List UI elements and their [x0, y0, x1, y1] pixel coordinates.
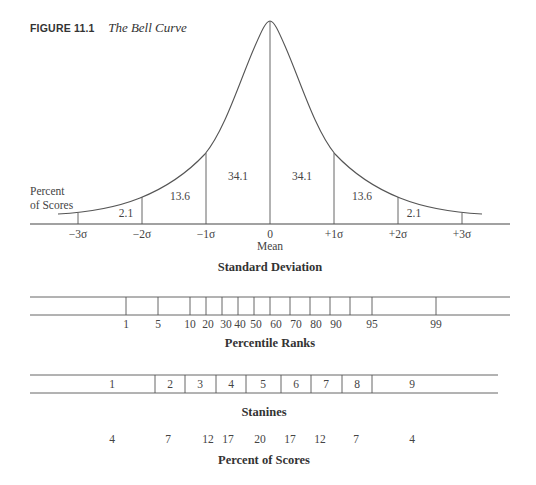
stanine-percent: 17 [222, 433, 234, 445]
stanine-percent: 7 [165, 433, 171, 445]
percentile-title: Percentile Ranks [225, 336, 316, 350]
stanine-label: 5 [260, 378, 266, 390]
percentile-tick: 30 [220, 318, 232, 330]
percentile-tick: 40 [234, 318, 246, 330]
percentile-tick: 5 [155, 318, 161, 330]
area-label: 13.6 [352, 190, 372, 202]
sigma-dividers [78, 21, 462, 224]
percentile-tick: 10 [184, 318, 196, 330]
area-label: 13.6 [170, 190, 190, 202]
sigma-tick: −3σ [69, 228, 88, 240]
area-label: 34.1 [292, 170, 312, 182]
y-label-line1: Percent [30, 185, 65, 197]
stanine-label: 4 [228, 378, 234, 390]
percentile-tick-labels: 1 5 10 20 30 40 50 60 70 80 90 95 99 Per… [123, 318, 442, 350]
percentile-tick: 60 [270, 318, 282, 330]
sigma-tick: −2σ [133, 228, 152, 240]
percentile-tick: 1 [123, 318, 129, 330]
stanine-label: 8 [354, 378, 360, 390]
stanine-percent: 12 [202, 433, 214, 445]
stanine-label: 1 [109, 378, 115, 390]
stanine-label: 7 [323, 378, 329, 390]
stanine-percent: 12 [314, 433, 326, 445]
sigma-tick: −1σ [197, 228, 216, 240]
percentile-tick: 80 [310, 318, 322, 330]
stanine-percent: 7 [353, 433, 359, 445]
y-label-line2: of Scores [30, 199, 74, 211]
percent-of-scores-title: Percent of Scores [218, 453, 310, 467]
percentile-tick: 50 [250, 318, 262, 330]
stanine-label: 2 [167, 378, 173, 390]
percentile-tick: 90 [330, 318, 342, 330]
bell-curve-diagram: Percent of Scores 2.1 13.6 34.1 34.1 13.… [0, 0, 536, 485]
stanine-label: 9 [409, 378, 415, 390]
area-label: 34.1 [228, 170, 248, 182]
percentile-tick: 99 [430, 318, 442, 330]
sigma-tick: +3σ [453, 228, 472, 240]
stanine-percent: 17 [284, 433, 296, 445]
sigma-tick: 0 [267, 228, 273, 240]
stanine-percent: 20 [254, 433, 266, 445]
stanine-percent-labels: 4 7 12 17 20 17 12 7 4 Percent of Scores [109, 433, 415, 467]
area-label: 2.1 [119, 207, 134, 219]
std-dev-title: Standard Deviation [218, 260, 323, 274]
percentile-tick: 70 [290, 318, 302, 330]
sigma-tick: +2σ [389, 228, 408, 240]
area-label: 2.1 [407, 207, 422, 219]
percentile-tick: 95 [366, 318, 378, 330]
mean-label: Mean [257, 240, 283, 252]
sigma-tick-labels: −3σ −2σ −1σ 0 +1σ +2σ +3σ Mean Standard … [69, 228, 472, 274]
percentile-tick: 20 [202, 318, 214, 330]
percentile-bar [30, 297, 510, 315]
stanine-label: 3 [197, 378, 203, 390]
sigma-tick: +1σ [325, 228, 344, 240]
stanines-title: Stanines [241, 405, 286, 419]
stanine-percent: 4 [109, 433, 115, 445]
stanine-percent: 4 [409, 433, 415, 445]
stanine-label: 6 [293, 378, 299, 390]
